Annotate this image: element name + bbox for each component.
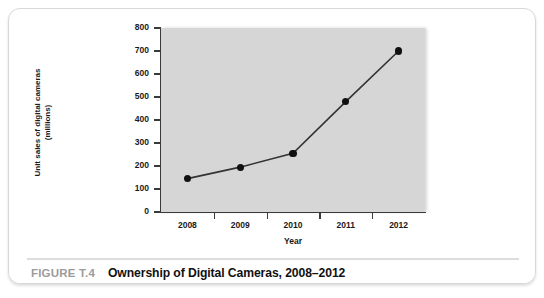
y-axis-tick-mark	[154, 142, 160, 143]
figure-caption: FIGURE T.4 Ownership of Digital Cameras,…	[9, 260, 536, 284]
x-axis-tick-label: 2012	[373, 221, 425, 230]
series-line	[187, 51, 398, 179]
y-axis-tick-label: 700	[115, 46, 149, 55]
x-axis-tick-mark	[372, 213, 373, 219]
y-axis-tick-mark	[154, 96, 160, 97]
x-axis-tick-label: 2009	[214, 221, 266, 230]
y-axis-tick-label: 400	[115, 115, 149, 124]
figure-card: 0100200300400500600700800 20082009201020…	[8, 8, 536, 284]
data-point	[237, 164, 244, 171]
x-axis-tick-mark	[267, 213, 268, 219]
y-axis-tick-mark	[154, 73, 160, 74]
figure-title-label: Ownership of Digital Cameras, 2008–2012	[108, 266, 345, 280]
figure-number-label: FIGURE T.4	[31, 267, 95, 279]
x-axis-tick-mark	[319, 213, 320, 219]
plot-background	[161, 28, 425, 212]
x-axis-line	[160, 212, 426, 213]
y-axis-title: Unit sales of digital cameras (millions)	[33, 43, 52, 203]
x-axis-tick-label: 2008	[161, 221, 213, 230]
line-chart-svg	[161, 28, 425, 212]
y-axis-title-line2: (millions)	[42, 105, 51, 141]
y-axis-tick-mark	[154, 27, 160, 28]
x-axis-tick-label: 2011	[320, 221, 372, 230]
y-axis-tick-label: 0	[115, 207, 149, 216]
y-axis-line	[160, 27, 161, 213]
data-point	[289, 150, 296, 157]
y-axis-tick-label: 800	[115, 23, 149, 32]
data-point	[395, 47, 402, 54]
x-axis-tick-label: 2010	[267, 221, 319, 230]
y-axis-tick-label: 200	[115, 161, 149, 170]
x-axis-title: Year	[161, 236, 425, 246]
y-axis-tick-label: 500	[115, 92, 149, 101]
y-axis-tick-mark	[154, 188, 160, 189]
y-axis-tick-mark	[154, 50, 160, 51]
y-axis-tick-label: 300	[115, 138, 149, 147]
y-axis-tick-label: 100	[115, 184, 149, 193]
y-axis-tick-label: 600	[115, 69, 149, 78]
y-axis-tick-mark	[154, 165, 160, 166]
x-axis-tick-mark	[214, 213, 215, 219]
chart-region: 0100200300400500600700800 20082009201020…	[9, 9, 536, 251]
y-axis-tick-mark	[154, 211, 160, 212]
y-axis-title-line1: Unit sales of digital cameras	[33, 68, 42, 176]
y-axis-tick-mark	[154, 119, 160, 120]
